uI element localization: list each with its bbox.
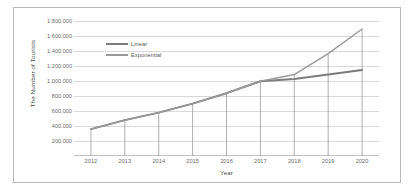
legend-entry-exponential[interactable]: Exponential [106,49,206,60]
y-tick-label: 1.800.000 [26,18,72,24]
legend-label: Linear [131,41,147,47]
x-tick-label: 2019 [311,158,345,164]
x-tick-label: 2020 [345,158,379,164]
tourists-line-chart: The Number of Tourists 200.000400.000600… [14,8,402,184]
y-tick-label: 1.000.000 [26,78,72,84]
y-tick-label: 200.000 [26,138,72,144]
legend-entry-linear[interactable]: Linear [106,38,206,49]
y-axis-tick-labels: 200.000400.000600.000800.0001.000.0001.2… [26,8,72,184]
y-tick-label: 1.200.000 [26,63,72,69]
y-tick-label: 400.000 [26,123,72,129]
chart-figure-frame: The Number of Tourists 200.000400.000600… [13,7,401,183]
y-tick-label: 800.000 [26,93,72,99]
x-tick-label: 2018 [277,158,311,164]
y-tick-label: 1.400.000 [26,48,72,54]
x-tick-label: 2012 [74,158,108,164]
plot-area [74,14,379,156]
y-tick-label: 1.600.000 [26,33,72,39]
x-tick-label: 2013 [108,158,142,164]
x-axis-title: Year [74,169,379,176]
x-tick-label: 2015 [176,158,210,164]
legend-label: Exponential [131,52,161,58]
x-tick-label: 2014 [142,158,176,164]
legend-swatch-icon [106,43,128,45]
chart-legend: LinearExponential [106,38,206,60]
y-tick-label: 600.000 [26,108,72,114]
series-plot [74,14,379,156]
legend-swatch-icon [106,54,128,56]
x-tick-label: 2016 [210,158,244,164]
x-tick-label: 2017 [243,158,277,164]
